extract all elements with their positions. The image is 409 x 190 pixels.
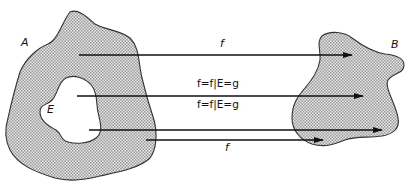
arrow-f-bottom-label: f	[225, 141, 229, 154]
mapping-diagram	[0, 0, 409, 190]
set-a-label: A	[21, 36, 29, 49]
set-b-label: B	[391, 38, 399, 51]
arrow-f-top-label: f	[220, 37, 224, 50]
set-e-label: E	[47, 103, 54, 116]
arrow-restriction-2-label: f=f|E=g	[197, 98, 239, 110]
arrow-restriction-1-label: f=f|E=g	[197, 77, 239, 89]
set-b-region	[292, 32, 404, 145]
